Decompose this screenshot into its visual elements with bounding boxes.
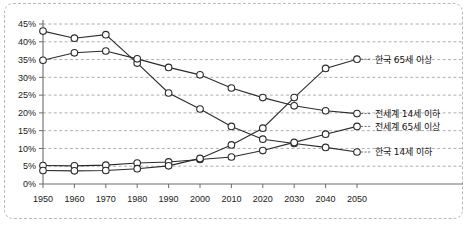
data-point-marker[interactable] — [322, 131, 329, 138]
data-point-marker[interactable] — [322, 65, 329, 72]
legend-label: 한국 65세 이상 — [375, 55, 432, 65]
data-point-marker[interactable] — [291, 94, 298, 101]
data-point-marker[interactable] — [71, 35, 78, 42]
data-point-marker[interactable] — [322, 144, 329, 151]
y-axis-tick-label: 45% — [18, 19, 36, 29]
data-point-marker[interactable] — [260, 94, 267, 101]
data-point-marker[interactable] — [71, 168, 78, 175]
x-axis-tick-label: 2030 — [284, 194, 304, 204]
data-point-marker[interactable] — [354, 149, 361, 156]
x-axis-tick-label: 1990 — [159, 194, 179, 204]
data-point-marker[interactable] — [165, 90, 172, 97]
series-line — [43, 31, 357, 152]
data-point-marker[interactable] — [322, 107, 329, 114]
y-axis-tick-label: 25% — [18, 90, 36, 100]
y-axis-tick-label: 35% — [18, 55, 36, 65]
data-point-marker[interactable] — [134, 165, 141, 172]
data-point-marker[interactable] — [103, 31, 110, 38]
data-point-marker[interactable] — [40, 57, 47, 64]
data-point-marker[interactable] — [165, 163, 172, 170]
y-axis-tick-label: 30% — [18, 73, 36, 83]
data-point-marker[interactable] — [71, 50, 78, 57]
data-point-marker[interactable] — [197, 155, 204, 162]
legend-label: 한국 14세 이하 — [375, 147, 433, 157]
data-point-marker[interactable] — [291, 139, 298, 146]
data-point-marker[interactable] — [103, 48, 110, 55]
x-axis-tick-label: 2000 — [190, 194, 210, 204]
data-point-marker[interactable] — [197, 106, 204, 113]
data-point-marker[interactable] — [354, 110, 361, 117]
x-axis-tick-label: 1950 — [33, 194, 53, 204]
data-point-marker[interactable] — [228, 142, 235, 149]
x-axis-tick-label: 1960 — [64, 194, 84, 204]
data-point-marker[interactable] — [260, 147, 267, 154]
x-axis-tick-label: 1980 — [127, 194, 147, 204]
data-point-marker[interactable] — [103, 167, 110, 174]
data-point-marker[interactable] — [165, 64, 172, 71]
y-axis-tick-label: 10% — [18, 144, 36, 154]
data-point-marker[interactable] — [40, 167, 47, 174]
data-point-marker[interactable] — [40, 28, 47, 35]
data-point-marker[interactable] — [228, 123, 235, 130]
x-axis-tick-label: 2040 — [316, 194, 336, 204]
x-axis-tick-label: 2050 — [347, 194, 367, 204]
data-point-marker[interactable] — [228, 154, 235, 161]
y-axis-tick-label: 15% — [18, 126, 36, 136]
x-axis-tick-label: 2020 — [253, 194, 273, 204]
legend-label: 전세계 65세 이상 — [375, 121, 440, 132]
data-point-marker[interactable] — [291, 102, 298, 109]
chart-plot-area: 0%5%10%15%20%25%30%35%40%45%195019601970… — [0, 0, 469, 225]
y-axis-tick-label: 20% — [18, 108, 36, 118]
y-axis-tick-label: 40% — [18, 37, 36, 47]
data-point-marker[interactable] — [228, 85, 235, 92]
y-axis-tick-label: 0% — [23, 179, 36, 189]
data-point-marker[interactable] — [260, 125, 267, 132]
data-point-marker[interactable] — [197, 72, 204, 79]
line-chart: 0%5%10%15%20%25%30%35%40%45%195019601970… — [0, 0, 469, 225]
data-point-marker[interactable] — [134, 56, 141, 63]
data-point-marker[interactable] — [354, 56, 361, 63]
data-point-marker[interactable] — [260, 136, 267, 143]
y-axis-tick-label: 5% — [23, 161, 36, 171]
legend-label: 전세계 14세 이하 — [375, 108, 441, 119]
data-point-marker[interactable] — [354, 123, 361, 130]
x-axis-tick-label: 2010 — [221, 194, 241, 204]
x-axis-tick-label: 1970 — [96, 194, 116, 204]
